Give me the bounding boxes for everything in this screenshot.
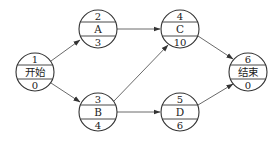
edge-1-2 bbox=[51, 40, 80, 61]
node-duration: 3 bbox=[95, 37, 101, 48]
node-number: 1 bbox=[32, 54, 38, 65]
node-number: 3 bbox=[95, 94, 101, 105]
node-end: 6 结束 0 bbox=[229, 53, 267, 91]
edge-1-3 bbox=[51, 83, 80, 102]
node-number: 5 bbox=[177, 94, 183, 105]
node-name: B bbox=[94, 106, 102, 118]
edge-3-4 bbox=[114, 45, 168, 101]
node-name: D bbox=[176, 106, 184, 118]
node-duration: 6 bbox=[177, 120, 183, 131]
node-name: C bbox=[176, 23, 184, 35]
node-b: 3 B 4 bbox=[79, 93, 117, 131]
node-duration: 10 bbox=[174, 37, 187, 48]
node-duration: 0 bbox=[245, 80, 251, 91]
node-a: 2 A 3 bbox=[79, 10, 117, 48]
node-d: 5 D 6 bbox=[161, 93, 199, 131]
node-start: 1 开始 0 bbox=[16, 53, 54, 91]
node-name: A bbox=[93, 23, 102, 35]
edge-5-6 bbox=[198, 84, 233, 105]
node-c: 4 C 10 bbox=[161, 10, 199, 48]
node-duration: 4 bbox=[95, 120, 101, 131]
node-duration: 0 bbox=[32, 80, 38, 91]
edge-4-6 bbox=[198, 36, 233, 59]
node-number: 6 bbox=[245, 54, 251, 65]
node-name: 结束 bbox=[238, 66, 259, 78]
node-number: 4 bbox=[177, 11, 183, 22]
node-number: 2 bbox=[95, 11, 101, 22]
node-name: 开始 bbox=[25, 66, 46, 78]
network-diagram: 1 开始 0 2 A 3 3 B 4 4 C 10 5 D 6 bbox=[0, 0, 280, 147]
